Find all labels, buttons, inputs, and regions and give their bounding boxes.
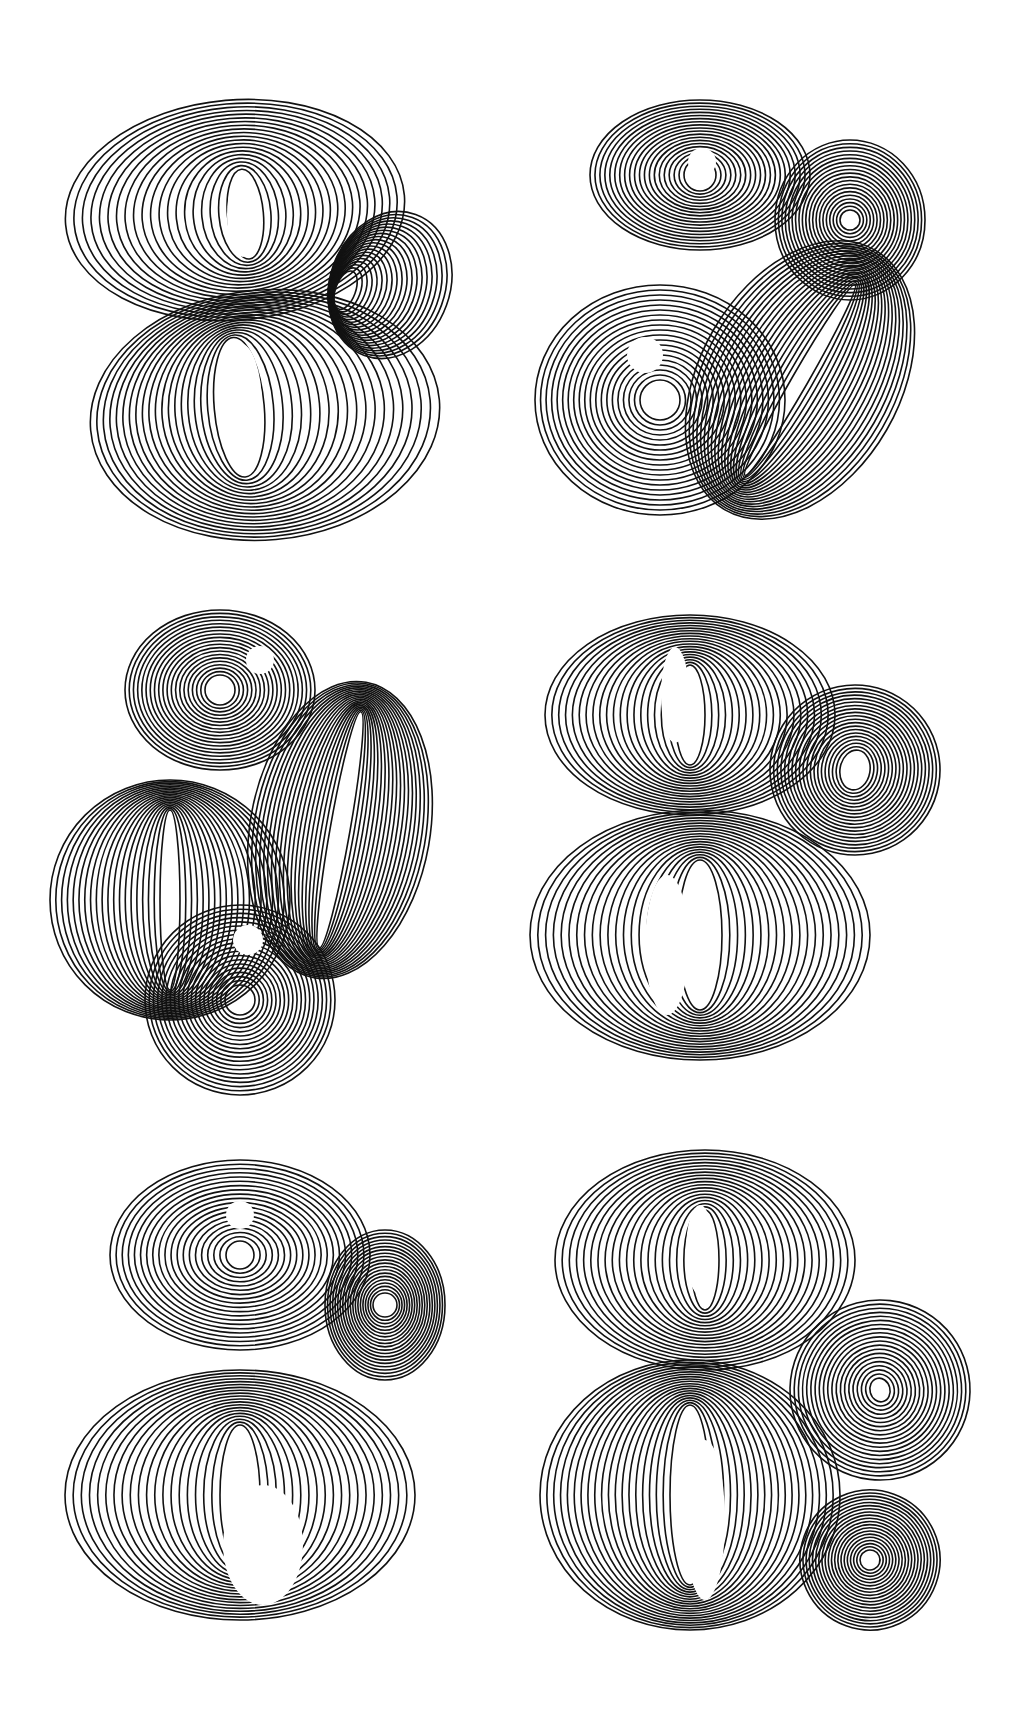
ampersand-glyph-5 xyxy=(55,1145,465,1625)
ampersand-5-lines xyxy=(55,1145,465,1625)
ampersand-2-lines xyxy=(520,90,960,540)
ampersand-glyph-4 xyxy=(525,605,955,1065)
ampersand-glyph-3 xyxy=(40,600,470,1100)
ampersand-1-lines xyxy=(60,85,460,545)
artwork-canvas xyxy=(0,0,1011,1713)
ampersand-3-lines xyxy=(40,600,470,1100)
ampersand-glyph-1 xyxy=(60,85,460,545)
ampersand-6-lines xyxy=(530,1140,970,1650)
ampersand-glyph-2 xyxy=(520,90,960,540)
ampersand-glyph-6 xyxy=(530,1140,970,1650)
ampersand-4-lines xyxy=(525,605,955,1065)
